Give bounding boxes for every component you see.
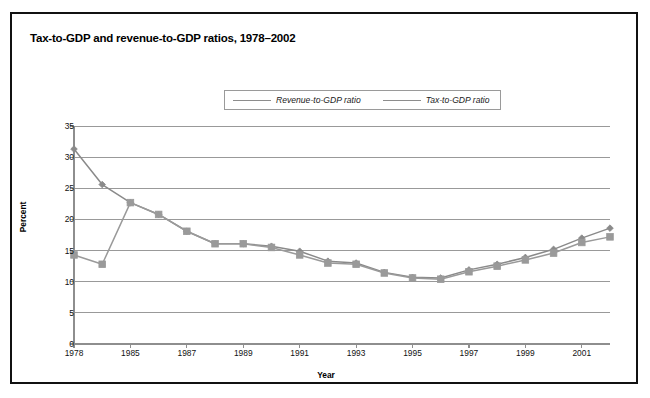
- x-axis-ticks: 1978198519871989199119931995199719992001: [12, 344, 640, 364]
- x-tick-label: 1987: [178, 348, 197, 358]
- y-tick-label: 20: [48, 214, 74, 224]
- y-tick-label: 10: [48, 277, 74, 287]
- y-tick-label: 30: [48, 152, 74, 162]
- x-tick-label: 1999: [516, 348, 535, 358]
- x-tick-label: 1997: [460, 348, 479, 358]
- y-tick-label: 5: [48, 308, 74, 318]
- plot-area: Percent 05101520253035 19781985198719891…: [12, 14, 640, 386]
- x-axis-title: Year: [12, 370, 640, 380]
- y-tick-label: 25: [48, 183, 74, 193]
- y-tick-label: 35: [48, 121, 74, 131]
- line-chart-svg: [12, 14, 640, 386]
- x-tick-label: 1995: [403, 348, 422, 358]
- y-axis-title: Percent: [18, 202, 28, 233]
- x-tick-label: 1993: [347, 348, 366, 358]
- figure-panel: Tax-to-GDP and revenue-to-GDP ratios, 19…: [10, 12, 638, 384]
- x-tick-label: 2001: [572, 348, 591, 358]
- y-tick-label: 15: [48, 246, 74, 256]
- x-tick-label: 1985: [121, 348, 140, 358]
- x-tick-label: 1978: [65, 348, 84, 358]
- y-axis-ticks: 05101520253035: [48, 14, 74, 386]
- x-tick-label: 1989: [234, 348, 253, 358]
- x-tick-label: 1991: [290, 348, 309, 358]
